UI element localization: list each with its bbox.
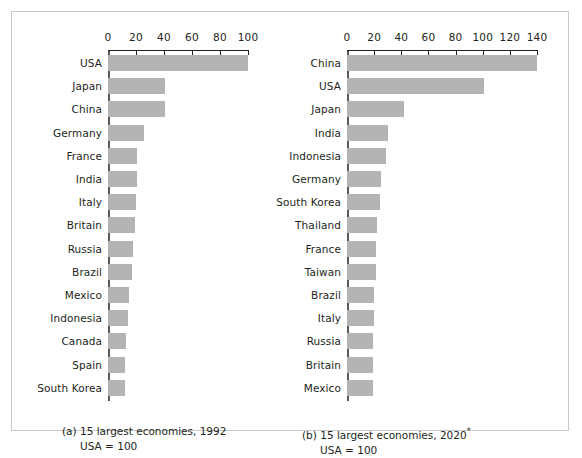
bar-row: USA — [292, 78, 570, 94]
bar-category-label: Thailand — [295, 219, 341, 231]
bar — [108, 78, 165, 94]
x-axis-line — [108, 50, 248, 51]
bar-category-label: South Korea — [276, 196, 341, 208]
bar-category-label: Russia — [68, 243, 102, 255]
x-axis-tick-label: 140 — [527, 31, 548, 43]
bar-category-label: Brazil — [311, 289, 341, 301]
x-axis-tick-label: 80 — [449, 31, 463, 43]
chart-panel-b: 020406080100120140ChinaUSAJapanIndiaIndo… — [292, 12, 570, 430]
bar-category-label: France — [66, 150, 102, 162]
bar — [347, 241, 376, 257]
bar-category-label: South Korea — [37, 382, 102, 394]
x-axis-tick-label: 60 — [185, 31, 199, 43]
bar — [347, 380, 373, 396]
bar — [108, 194, 136, 210]
bar-row: Mexico — [12, 287, 292, 303]
x-axis-line — [347, 50, 537, 51]
x-axis-tick-label: 20 — [367, 31, 381, 43]
bar-category-label: Britain — [67, 219, 102, 231]
bar-row: USA — [12, 55, 292, 71]
bar-category-label: Mexico — [304, 382, 341, 394]
bar-category-label: Japan — [72, 80, 102, 92]
bar-category-label: Indonesia — [289, 150, 341, 162]
bar-category-label: USA — [80, 57, 102, 69]
bar-category-label: Italy — [318, 312, 341, 324]
panel-caption-main: (a) 15 largest economies, 1992 — [62, 425, 226, 437]
bar-category-label: Spain — [72, 359, 102, 371]
bar-category-label: Russia — [307, 335, 341, 347]
bar — [108, 171, 137, 187]
bar-row: Taiwan — [292, 264, 570, 280]
bar-category-label: France — [305, 243, 341, 255]
panel-caption: (b) 15 largest economies, 2020*USA = 100 — [302, 424, 471, 458]
bar — [347, 101, 404, 117]
bar-category-label: USA — [319, 80, 341, 92]
bar — [347, 148, 386, 164]
bar-row: France — [12, 148, 292, 164]
bar-row: Italy — [12, 194, 292, 210]
bar — [108, 310, 128, 326]
bar-row: Japan — [292, 101, 570, 117]
bar-row: Indonesia — [292, 148, 570, 164]
bar-row: South Korea — [292, 194, 570, 210]
bar — [108, 287, 129, 303]
footnote-asterisk: * — [467, 427, 471, 436]
bar-row: Indonesia — [12, 310, 292, 326]
bar-row: India — [292, 125, 570, 141]
bar — [108, 333, 126, 349]
bar-row: Canada — [12, 333, 292, 349]
bar-category-label: Taiwan — [305, 266, 341, 278]
bar-row: Russia — [12, 241, 292, 257]
bar — [108, 264, 132, 280]
bar — [347, 287, 374, 303]
bar-row: Mexico — [292, 380, 570, 396]
panel-caption: (a) 15 largest economies, 1992USA = 100 — [62, 424, 226, 454]
bar — [347, 78, 484, 94]
panel-caption-sub: USA = 100 — [302, 443, 471, 458]
bar-category-label: Brazil — [72, 266, 102, 278]
bar-row: Brazil — [292, 287, 570, 303]
x-axis-tick-label: 100 — [472, 31, 493, 43]
bar-row: Japan — [12, 78, 292, 94]
bar-category-label: Italy — [79, 196, 102, 208]
bar-row: Germany — [12, 125, 292, 141]
bar — [108, 217, 135, 233]
bar — [347, 55, 537, 71]
panel-caption-sub: USA = 100 — [62, 439, 226, 454]
x-axis-tick-label: 0 — [105, 31, 112, 43]
bar-row: France — [292, 241, 570, 257]
bar-row: Spain — [12, 357, 292, 373]
bar — [347, 125, 388, 141]
bar — [347, 264, 376, 280]
x-axis-tick-label: 20 — [129, 31, 143, 43]
panel-caption-main: (b) 15 largest economies, 2020 — [302, 429, 467, 441]
bar-row: Russia — [292, 333, 570, 349]
bar — [347, 194, 380, 210]
bar-row: Italy — [292, 310, 570, 326]
bar-category-label: Germany — [292, 173, 341, 185]
bar — [108, 55, 248, 71]
bar — [347, 310, 374, 326]
bar — [108, 357, 125, 373]
bar-category-label: Indonesia — [50, 312, 102, 324]
bar-category-label: India — [315, 127, 341, 139]
bar-row: Thailand — [292, 217, 570, 233]
bar — [108, 241, 133, 257]
bar-category-label: China — [72, 103, 103, 115]
bar-row: China — [12, 101, 292, 117]
bar-row: South Korea — [12, 380, 292, 396]
bar-category-label: Japan — [311, 103, 341, 115]
bar-category-label: China — [311, 57, 342, 69]
bar-row: Brazil — [12, 264, 292, 280]
bar — [108, 380, 125, 396]
bar-row: Germany — [292, 171, 570, 187]
x-axis-tick-label: 40 — [157, 31, 171, 43]
bar-category-label: Britain — [306, 359, 341, 371]
bar — [108, 101, 165, 117]
figure-frame: 020406080100USAJapanChinaGermanyFranceIn… — [11, 11, 569, 431]
bar — [347, 333, 373, 349]
bar-category-label: Mexico — [65, 289, 102, 301]
x-axis-tick-label: 100 — [238, 31, 259, 43]
x-axis-tick-label: 0 — [344, 31, 351, 43]
x-axis-tick-label: 120 — [500, 31, 521, 43]
